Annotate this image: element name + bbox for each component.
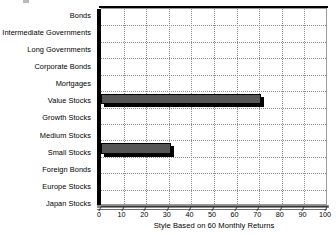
category-label-foreign-bonds: Foreign Bonds bbox=[42, 166, 94, 174]
category-label-corporate-bonds: Corporate Bonds bbox=[34, 63, 94, 71]
category-label-europe-stocks: Europe Stocks bbox=[42, 183, 94, 191]
category-label-japan-stocks: Japan Stocks bbox=[46, 200, 94, 208]
x-tick-label: 10 bbox=[112, 211, 132, 219]
x-tick-label: 50 bbox=[202, 211, 222, 219]
category-axis-labels: Bonds Intermediate Governments Long Gove… bbox=[0, 12, 94, 208]
category-label-long-governments: Long Governments bbox=[27, 46, 94, 54]
category-label-mortgages: Mortgages bbox=[56, 80, 94, 88]
bar-value-stocks bbox=[101, 94, 261, 104]
x-tick-label: 20 bbox=[134, 211, 154, 219]
image-artifact bbox=[23, 0, 29, 3]
bar-small-stocks bbox=[101, 143, 171, 153]
plot-area bbox=[101, 8, 327, 205]
x-tick-label: 0 bbox=[89, 211, 109, 219]
category-label-bonds: Bonds bbox=[70, 12, 94, 20]
x-tick-label: 100 bbox=[315, 211, 335, 219]
x-tick-label: 90 bbox=[292, 211, 312, 219]
category-label-medium-stocks: Medium Stocks bbox=[40, 132, 94, 140]
x-tick-label: 80 bbox=[270, 211, 290, 219]
category-label-intermediate-governments: Intermediate Governments bbox=[2, 29, 94, 37]
horizontal-bar-chart: Bonds Intermediate Governments Long Gove… bbox=[0, 0, 336, 235]
x-axis-title: Style Based on 60 Monthly Returns bbox=[101, 221, 327, 230]
category-label-growth-stocks: Growth Stocks bbox=[42, 114, 94, 122]
category-label-value-stocks: Value Stocks bbox=[48, 97, 94, 105]
category-label-small-stocks: Small Stocks bbox=[48, 149, 94, 157]
bar-series bbox=[101, 9, 326, 204]
x-tick-label: 40 bbox=[179, 211, 199, 219]
x-tick-label: 30 bbox=[157, 211, 177, 219]
x-tick-label: 70 bbox=[247, 211, 267, 219]
x-tick-label: 60 bbox=[225, 211, 245, 219]
